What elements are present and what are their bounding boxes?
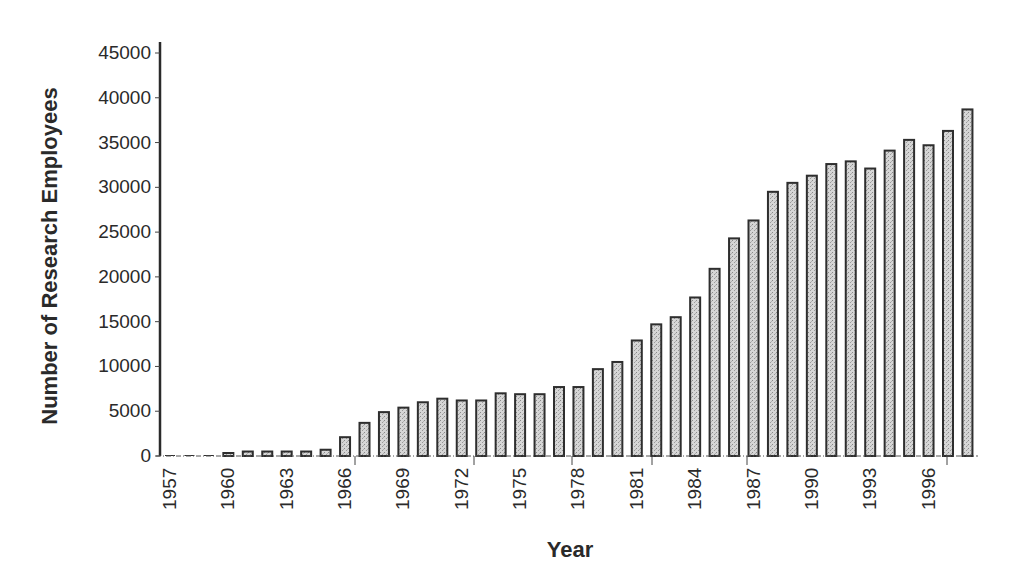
y-tick-label: 40000 [98, 87, 151, 109]
bar-1964 [301, 452, 311, 456]
bar-1980 [612, 362, 622, 456]
bar-1996 [924, 145, 934, 456]
x-tick-label: 1981 [626, 468, 648, 510]
y-tick-label: 35000 [98, 132, 151, 154]
y-tick-label: 20000 [98, 266, 151, 288]
bar-1983 [671, 317, 681, 456]
x-tick-label: 1975 [509, 468, 531, 510]
bars-group [165, 109, 972, 456]
bar-1990 [807, 176, 817, 456]
bar-1972 [457, 400, 467, 456]
x-tick-label: 1957 [159, 468, 181, 510]
bar-1986 [729, 238, 739, 456]
x-tick-label: 1984 [684, 468, 706, 510]
y-tick-label: 10000 [98, 355, 151, 377]
y-tick-label: 0 [140, 445, 151, 467]
bar-1963 [282, 452, 292, 456]
x-tick-label: 1990 [801, 468, 823, 510]
bar-1976 [535, 394, 545, 456]
y-tick-label: 25000 [98, 221, 151, 243]
y-tick-label: 45000 [98, 42, 151, 64]
bar-1977 [554, 387, 564, 456]
bar-1962 [262, 452, 272, 456]
x-tick-label: 1996 [918, 468, 940, 510]
bar-1981 [632, 340, 642, 456]
x-tick-label: 1963 [276, 468, 298, 510]
x-axis-title: Year [547, 537, 594, 563]
bar-1970 [418, 402, 428, 456]
x-tick-label: 1993 [859, 468, 881, 510]
bar-1984 [690, 297, 700, 456]
bar-1973 [476, 400, 486, 456]
bar-1991 [826, 164, 836, 456]
x-tick-label: 1972 [451, 468, 473, 510]
bar-1995 [904, 140, 914, 456]
y-tick-label: 5000 [109, 400, 151, 422]
bar-1989 [787, 183, 797, 456]
bar-1966 [340, 437, 350, 456]
x-tick-label: 1969 [392, 468, 414, 510]
bar-1982 [651, 324, 661, 456]
bar-1971 [437, 399, 447, 456]
bar-1968 [379, 412, 389, 456]
x-tick-label: 1978 [567, 468, 589, 510]
x-tick-label: 1966 [334, 468, 356, 510]
y-axis-title: Number of Research Employees [37, 87, 63, 424]
bar-1987 [749, 220, 759, 456]
bar-1967 [360, 423, 370, 456]
bar-1974 [496, 393, 506, 456]
bar-1985 [710, 269, 720, 456]
bar-1979 [593, 369, 603, 456]
bar-1975 [515, 394, 525, 456]
bar-1997 [943, 131, 953, 456]
bar-chart: Number of Research Employees Year 050001… [0, 0, 1019, 584]
bar-1961 [243, 452, 253, 456]
x-tick-label: 1960 [217, 468, 239, 510]
y-tick-label: 30000 [98, 176, 151, 198]
bar-1978 [573, 387, 583, 456]
bar-1998 [962, 109, 972, 456]
y-tick-label: 15000 [98, 311, 151, 333]
bar-1993 [865, 169, 875, 456]
bar-1992 [846, 161, 856, 456]
bar-1994 [885, 151, 895, 456]
bar-1965 [321, 450, 331, 456]
bar-1969 [398, 408, 408, 456]
x-tick-label: 1987 [743, 468, 765, 510]
bar-1988 [768, 192, 778, 456]
